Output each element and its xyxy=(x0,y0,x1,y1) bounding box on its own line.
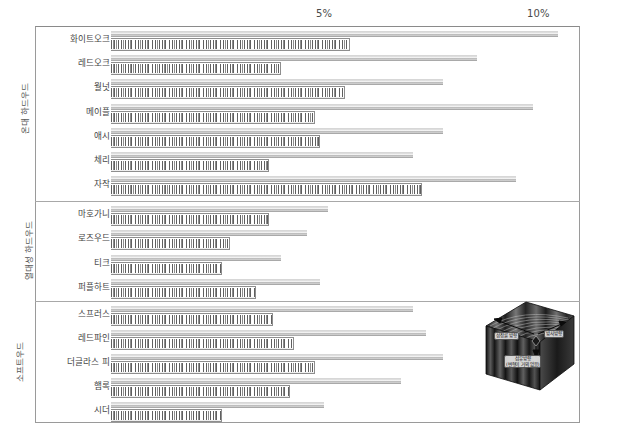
bar-tangential xyxy=(111,402,324,408)
bar-row: 애시 xyxy=(0,127,635,151)
bar-row-label: 애시 xyxy=(28,132,110,141)
bar-row-label: 햄록 xyxy=(28,382,110,391)
bar-row-label: 메이플 xyxy=(28,108,110,117)
label-fiber-line2: (변형이 거의 없음) xyxy=(506,362,539,367)
bar-radial xyxy=(111,159,269,172)
bar-row-label: 월넛 xyxy=(28,83,110,92)
bar-tangential xyxy=(111,306,413,312)
bar-radial xyxy=(111,62,281,75)
bar-tangential xyxy=(111,152,413,158)
bar-tangential xyxy=(111,55,477,61)
bar-row: 체리 xyxy=(0,151,635,175)
bar-tangential xyxy=(111,128,443,134)
bar-row: 로즈우드 xyxy=(0,229,635,253)
bar-tangential xyxy=(111,176,516,182)
bar-row-label: 더글라스 피 xyxy=(28,358,110,367)
label-growth-ring-direction: 성장륜 방향 xyxy=(494,332,519,340)
bar-tangential xyxy=(111,279,320,285)
bar-tangential xyxy=(111,206,328,212)
bar-row-label: 시더 xyxy=(28,406,110,415)
bar-row: 월넛 xyxy=(0,78,635,102)
bar-row-label: 레드파인 xyxy=(28,334,110,343)
bar-radial xyxy=(111,86,345,99)
wood-block-diagram: 성장륜 방향 방사방향 섬유방향 (변형이 거의 없음) xyxy=(482,300,578,396)
bar-row-label: 체리 xyxy=(28,156,110,165)
label-fiber-direction: 섬유방향 (변형이 거의 없음) xyxy=(504,355,541,368)
bar-radial xyxy=(111,385,290,398)
bar-row-label: 퍼플하트 xyxy=(28,283,110,292)
bar-row: 레드오크 xyxy=(0,54,635,78)
axis-tick-5: 5% xyxy=(316,8,332,19)
bar-tangential xyxy=(111,354,443,360)
group-separator-1 xyxy=(35,201,580,202)
bar-row-label: 레드오크 xyxy=(28,59,110,68)
bar-radial xyxy=(111,183,422,196)
bar-row-label: 자작 xyxy=(28,180,110,189)
axis-tick-10: 10% xyxy=(527,8,550,19)
bar-row: 메이플 xyxy=(0,103,635,127)
bar-row: 마호가니 xyxy=(0,205,635,229)
bar-radial xyxy=(111,262,222,275)
bar-row: 티크 xyxy=(0,254,635,278)
chart-root: 5% 10% 온대 하드우드 열대성 하드우드 소프트우드 화이트오크레드오크월… xyxy=(0,0,635,448)
bar-tangential xyxy=(111,378,401,384)
bar-radial xyxy=(111,237,230,250)
bar-row: 시더 xyxy=(0,401,635,425)
bar-tangential xyxy=(111,31,558,37)
bar-radial xyxy=(111,213,269,226)
bar-radial xyxy=(111,361,315,374)
bar-row-label: 로즈우드 xyxy=(28,234,110,243)
bar-row: 화이트오크 xyxy=(0,30,635,54)
bar-radial xyxy=(111,111,315,124)
bar-row-label: 스프러스 xyxy=(28,310,110,319)
bar-row: 자작 xyxy=(0,175,635,199)
bar-tangential xyxy=(111,255,281,261)
label-fiber-line1: 섬유방향 xyxy=(515,356,531,361)
bar-tangential xyxy=(111,330,426,336)
bar-radial xyxy=(111,38,350,51)
bar-radial xyxy=(111,337,294,350)
bar-tangential xyxy=(111,79,443,85)
bar-radial xyxy=(111,286,256,299)
bar-row-label: 마호가니 xyxy=(28,210,110,219)
bar-row-label: 티크 xyxy=(28,259,110,268)
wood-block-svg xyxy=(482,300,578,396)
bar-row: 퍼플하트 xyxy=(0,278,635,302)
label-radial-direction: 방사방향 xyxy=(544,330,564,338)
bar-radial xyxy=(111,313,273,326)
bar-radial xyxy=(111,409,222,422)
bar-radial xyxy=(111,135,320,148)
bar-row-label: 화이트오크 xyxy=(28,35,110,44)
bar-tangential xyxy=(111,230,307,236)
bar-tangential xyxy=(111,104,533,110)
